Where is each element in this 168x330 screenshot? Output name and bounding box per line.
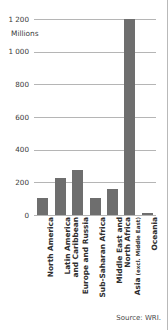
bar-oceania: [142, 213, 153, 215]
bar-chart-figure: Millions 1 200 1 000 800 600 400 200 0 N…: [0, 0, 168, 330]
bar-series: [34, 8, 156, 215]
x-axis-label-5: Asia (excl. Middle East): [134, 217, 142, 303]
source-note: Source: WRI.: [116, 314, 161, 322]
bar-sub-saharan-africa: [90, 198, 101, 216]
y-tick-label-600: 600: [0, 114, 29, 121]
x-axis-label-3: Sub-Saharan Africa: [99, 217, 107, 303]
bar-asia-excl-middle-east: [124, 19, 135, 215]
y-tick-label-800: 800: [0, 81, 29, 88]
bar-europe-and-russia: [72, 170, 83, 215]
y-tick-label-1200: 1 200: [0, 16, 29, 23]
y-tick-label-1000: 1 000: [0, 48, 29, 55]
x-axis-label-2: Europe and Russia: [82, 217, 90, 303]
gridline-0: [34, 215, 156, 216]
bar-middle-east-and-north-africa: [107, 189, 118, 215]
bar-latin-america-and-caribbean: [55, 178, 66, 215]
y-tick-label-200: 200: [0, 179, 29, 186]
y-tick-label-400: 400: [0, 146, 29, 153]
x-axis-label-6: Oceania: [151, 217, 159, 303]
x-axis-label-4: Middle East and North Africa: [116, 217, 132, 303]
x-axis-labels: North AmericaLatin America and Caribbean…: [34, 217, 156, 303]
x-axis-label-0: North America: [47, 217, 55, 303]
x-axis-label-note-5: (excl. Middle East): [135, 217, 141, 278]
x-axis-label-1: Latin America and Caribbean: [64, 217, 80, 303]
y-tick-label-0: 0: [0, 212, 29, 219]
bar-north-america: [37, 198, 48, 216]
